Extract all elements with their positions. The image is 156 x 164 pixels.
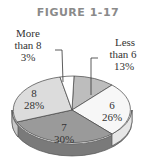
label-more-than-8-line1: More	[16, 27, 40, 39]
label-6-pct: 26%	[102, 111, 122, 123]
label-8-name: 8	[31, 87, 37, 99]
label-7-pct: 30%	[54, 133, 74, 145]
label-7-name: 7	[61, 121, 67, 133]
label-less-than-6-line2: than 6	[109, 48, 137, 60]
label-less-than-6-pct: 13%	[114, 60, 134, 72]
label-6-name: 6	[109, 99, 115, 111]
pie-chart: Less than 6 13% More than 8 3% 6 26% 8 2…	[0, 0, 156, 164]
label-more-than-8-pct: 3%	[21, 51, 36, 63]
label-less-than-6-line1: Less	[115, 36, 135, 48]
label-8-pct: 28%	[24, 99, 44, 111]
label-more-than-8-line2: than 8	[14, 39, 42, 51]
